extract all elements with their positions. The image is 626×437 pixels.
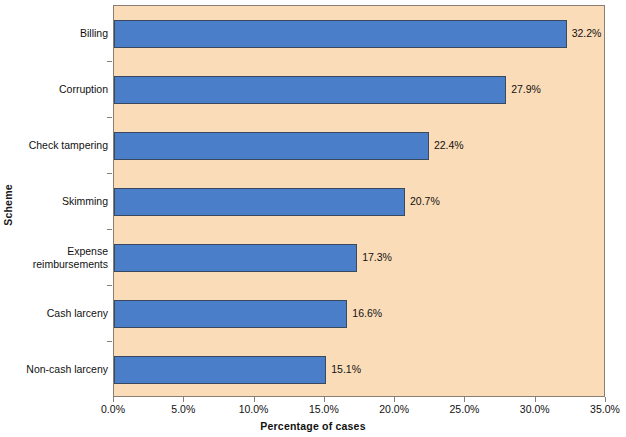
x-axis-tick-mark — [324, 397, 325, 402]
y-axis-title: Scheme — [0, 175, 16, 235]
x-axis-title: Percentage of cases — [0, 420, 626, 432]
x-axis-tick-label: 0.0% — [101, 403, 125, 415]
bar — [114, 188, 405, 216]
x-axis-tick-mark — [605, 397, 606, 402]
y-axis-title-text: Scheme — [2, 184, 14, 225]
x-axis-tick-mark — [254, 397, 255, 402]
y-axis-category-label: Skimming — [18, 195, 108, 208]
bar — [114, 244, 357, 272]
y-axis-category-label: Cash larceny — [18, 307, 108, 320]
x-axis-tick-mark — [113, 397, 114, 402]
y-axis-tick-labels: BillingCorruptionCheck tamperingSkimming… — [18, 5, 108, 397]
bar — [114, 76, 506, 104]
x-axis-tick-label: 5.0% — [171, 403, 195, 415]
bar — [114, 356, 326, 384]
x-axis-tick-label: 25.0% — [450, 403, 480, 415]
x-axis-tick-label: 15.0% — [309, 403, 339, 415]
plot-area — [113, 5, 605, 397]
bar — [114, 132, 429, 160]
bar — [114, 20, 567, 48]
bar-chart-figure: Scheme BillingCorruptionCheck tamperingS… — [0, 0, 626, 437]
x-axis-tick-mark — [464, 397, 465, 402]
x-axis-tick-label: 30.0% — [520, 403, 550, 415]
y-axis-category-label: Expense reimbursements — [18, 245, 108, 270]
y-axis-category-label: Check tampering — [18, 139, 108, 152]
y-axis-category-label: Billing — [18, 27, 108, 40]
x-axis-tick-mark — [394, 397, 395, 402]
y-axis-category-label: Corruption — [18, 83, 108, 96]
x-axis-tick-label: 20.0% — [379, 403, 409, 415]
x-axis-tick-label: 10.0% — [239, 403, 269, 415]
y-axis-category-label: Non-cash larceny — [18, 363, 108, 376]
x-axis-tick-label: 35.0% — [590, 403, 620, 415]
x-axis-tick-mark — [535, 397, 536, 402]
x-axis-tick-mark — [183, 397, 184, 402]
x-axis-tick-labels: 0.0%5.0%10.0%15.0%20.0%25.0%30.0%35.0% — [0, 403, 626, 419]
bar — [114, 300, 347, 328]
